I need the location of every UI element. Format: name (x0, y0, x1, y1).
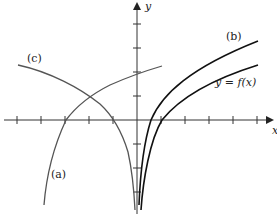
curve-f-label: y = f(x) (215, 76, 256, 89)
y-axis-label: y (145, 0, 151, 13)
x-axis-label: x (272, 124, 277, 137)
curve-b (139, 41, 258, 205)
curve-c-label: (c) (27, 52, 42, 65)
curve-a-label: (a) (51, 168, 66, 181)
curve-c (18, 65, 135, 210)
curve-b-label: (b) (226, 30, 242, 43)
